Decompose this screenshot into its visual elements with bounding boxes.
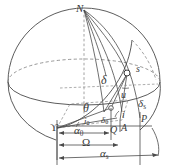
sphere-lower-rim (8, 82, 56, 140)
meridian-arc-1 (84, 10, 104, 112)
label-theta: θ (83, 102, 89, 114)
label-declination-delta: δ (101, 74, 107, 86)
dim-arrow-alphas-right (152, 153, 158, 157)
label-north-pole: N (76, 3, 83, 14)
i0-subscript: 0 (87, 120, 90, 126)
dim-box-right-curve (152, 128, 159, 156)
label-satellite: s (136, 64, 140, 74)
dim-arrow-alpha0-left (59, 131, 64, 135)
dim-arrow-omega-left (59, 143, 64, 147)
satellite-marker (124, 70, 130, 76)
label-point-p: P (141, 114, 147, 124)
angle-arc-i (115, 111, 119, 117)
label-declination-delta-s: δs (138, 98, 146, 111)
label-point-a: A (121, 123, 127, 133)
equator-projection-dashed (60, 84, 158, 88)
celestial-sphere-diagram: N s δ u δs i θ i0 δ0 ϒ Q A P α0 Ω αs (0, 0, 169, 168)
orbit-great-circle-dashed-back (132, 40, 156, 80)
label-inclination-i0: i0 (84, 117, 89, 127)
label-alpha-s: αs (100, 148, 109, 161)
label-raan-omega: Ω (82, 137, 90, 148)
label-inclination-i: i (122, 110, 125, 120)
label-declination-delta-0: δ0 (101, 116, 108, 126)
meridian-arc-4 (84, 10, 106, 76)
delta0-subscript: 0 (105, 119, 108, 125)
label-argument-of-latitude-u: u (121, 90, 126, 100)
meridian-arc-satellite (84, 10, 127, 74)
alphas-subscript: s (106, 153, 109, 161)
dim-arrow-alphas-left (59, 156, 64, 160)
label-point-q: Q (110, 125, 117, 135)
label-vernal-equinox: ϒ (50, 122, 58, 133)
dim-arrow-omega-right (113, 143, 118, 147)
dim-arrow-alpha0-right (104, 131, 109, 135)
delta-s-subscript: s (143, 103, 146, 111)
